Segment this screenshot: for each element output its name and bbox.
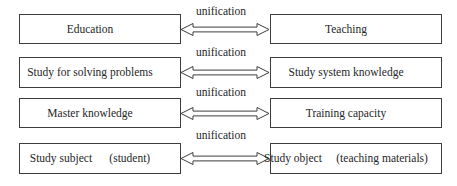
connector-label: unification (176, 46, 266, 59)
box-label: Study system knowledge (289, 66, 404, 79)
connector-label: unification (176, 5, 266, 18)
box-master-knowledge: Master knowledge (19, 98, 181, 128)
double-arrow-icon (180, 106, 270, 121)
box-education: Education (19, 14, 181, 44)
double-arrow-icon (180, 22, 270, 37)
double-arrow-icon (180, 65, 270, 80)
box-study-system-knowledge: Study system knowledge (270, 57, 442, 88)
box-label: Training capacity (306, 107, 386, 120)
box-label: Study subject (student) (30, 152, 150, 165)
box-study-object: Study object (teaching materials) (270, 143, 442, 174)
box-teaching: Teaching (270, 14, 442, 44)
connector-label: unification (176, 129, 266, 142)
box-label: Master knowledge (47, 107, 132, 120)
box-study-for-solving-problems: Study for solving problems (19, 57, 181, 88)
box-label: Study for solving problems (27, 66, 153, 79)
box-label: Teaching (325, 23, 367, 36)
box-training-capacity: Training capacity (270, 98, 442, 128)
connector-label: unification (176, 86, 266, 99)
box-label: Education (67, 23, 114, 36)
box-study-subject: Study subject (student) (19, 143, 181, 174)
diagram-canvas: unification Education Teaching unificati… (0, 0, 457, 186)
double-arrow-icon (180, 151, 270, 166)
box-label: Study object (teaching materials) (264, 152, 428, 165)
